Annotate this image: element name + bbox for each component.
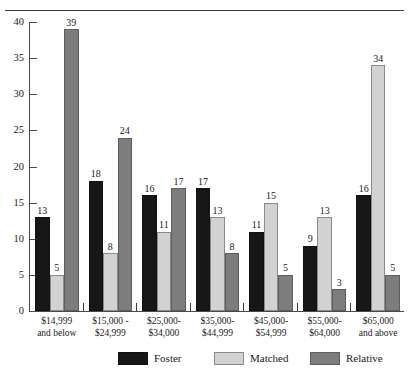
- bar-matched-4[interactable]: [210, 217, 225, 311]
- bar-value-label-relative-5: 5: [271, 263, 301, 273]
- chart-legend: FosterMatchedRelative: [0, 351, 409, 371]
- legend-label-matched: Matched: [250, 352, 288, 365]
- x-category-label-7: $65,000and above: [345, 316, 409, 339]
- bar-value-label-matched-6: 13: [310, 206, 340, 216]
- legend-label-foster: Foster: [154, 352, 182, 365]
- y-tick-label-0: 0: [0, 306, 24, 317]
- bar-foster-5[interactable]: [249, 232, 264, 311]
- bar-value-label-matched-5: 15: [256, 191, 286, 201]
- bar-value-label-foster-1: 13: [27, 206, 57, 216]
- bar-groups: 13539188241611171713811155913316345: [30, 22, 404, 311]
- bar-value-label-matched-4: 13: [203, 206, 233, 216]
- y-tick-label-35: 35: [0, 53, 24, 64]
- bar-group-2: 18824: [89, 22, 133, 311]
- legend-swatch-foster: [118, 352, 148, 365]
- group-separator-2: [136, 303, 137, 311]
- bar-matched-1[interactable]: [50, 275, 65, 311]
- x-category-label-line: and above: [345, 328, 409, 340]
- y-tick-label-40: 40: [0, 17, 24, 28]
- legend-label-relative: Relative: [346, 352, 383, 365]
- x-axis-category-labels: $14,999and below$15,000 -$24,999$25,000-…: [30, 316, 405, 344]
- bar-relative-6[interactable]: [332, 289, 347, 311]
- chart-figure: 4035302520151050 13539188241611171713811…: [0, 0, 409, 373]
- bar-value-label-foster-3: 16: [134, 184, 164, 194]
- bar-matched-3[interactable]: [157, 232, 172, 311]
- bar-value-label-relative-7: 5: [378, 263, 408, 273]
- y-tick-label-5: 5: [0, 270, 24, 281]
- bar-group-5: 11155: [249, 22, 293, 311]
- plot-area: 13539188241611171713811155913316345: [29, 22, 404, 311]
- top-divider-rule: [5, 10, 404, 11]
- group-separator-1: [83, 303, 84, 311]
- bar-value-label-foster-4: 17: [188, 177, 218, 187]
- bar-group-3: 161117: [142, 22, 186, 311]
- bar-matched-7[interactable]: [371, 65, 386, 311]
- x-axis-line: [29, 311, 404, 312]
- bar-value-label-foster-2: 18: [81, 169, 111, 179]
- group-separator-6: [350, 303, 351, 311]
- y-axis-tick-labels: 4035302520151050: [0, 22, 24, 311]
- y-tick-label-20: 20: [0, 162, 24, 173]
- y-tick-label-25: 25: [0, 125, 24, 136]
- legend-swatch-relative: [310, 352, 340, 365]
- bar-foster-6[interactable]: [303, 246, 318, 311]
- bar-group-1: 13539: [35, 22, 79, 311]
- bar-matched-5[interactable]: [264, 203, 279, 311]
- bar-matched-2[interactable]: [103, 253, 118, 311]
- group-separator-4: [243, 303, 244, 311]
- bar-relative-3[interactable]: [171, 188, 186, 311]
- bar-relative-1[interactable]: [64, 29, 79, 311]
- bar-group-6: 9133: [303, 22, 347, 311]
- bar-value-label-relative-4: 8: [217, 242, 247, 252]
- group-separator-5: [297, 303, 298, 311]
- y-tick-label-15: 15: [0, 198, 24, 209]
- legend-swatch-matched: [214, 352, 244, 365]
- bar-value-label-relative-1: 39: [56, 18, 86, 28]
- bar-relative-4[interactable]: [225, 253, 240, 311]
- bar-matched-6[interactable]: [317, 217, 332, 311]
- bar-relative-5[interactable]: [278, 275, 293, 311]
- bar-value-label-relative-2: 24: [110, 126, 140, 136]
- bar-foster-3[interactable]: [142, 195, 157, 311]
- y-tick-label-30: 30: [0, 89, 24, 100]
- x-category-label-line: $65,000: [345, 316, 409, 328]
- bar-group-4: 17138: [196, 22, 240, 311]
- bar-relative-2[interactable]: [118, 138, 133, 311]
- bar-value-label-matched-7: 34: [363, 54, 393, 64]
- bar-relative-7[interactable]: [385, 275, 400, 311]
- bar-group-7: 16345: [356, 22, 400, 311]
- y-tick-label-10: 10: [0, 234, 24, 245]
- bar-value-label-relative-6: 3: [324, 278, 354, 288]
- bar-foster-7[interactable]: [356, 195, 371, 311]
- group-separator-3: [190, 303, 191, 311]
